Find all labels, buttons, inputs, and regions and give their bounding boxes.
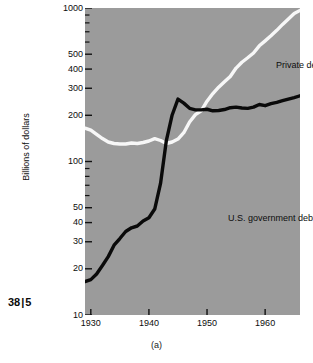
y-tick-label-100: 100 [49, 157, 83, 166]
plot-area: Private debt U.S. government debt [85, 8, 300, 315]
figure-container: 38|5 Billions of dollars 102030405010020… [0, 0, 313, 363]
y-tick-label-20: 20 [49, 264, 83, 273]
y-tick-label-300: 300 [49, 84, 83, 93]
page-marker: 38|5 [8, 296, 31, 308]
y-axis-major-ticks [85, 8, 92, 315]
page-marker-left: 38 [8, 296, 20, 308]
y-tick-label-30: 30 [49, 237, 83, 246]
x-tick-label-1940: 1940 [139, 318, 159, 328]
chart-svg [85, 8, 300, 315]
series-line-government-debt [85, 96, 300, 282]
y-axis-tick-labels: 10203040501002003004005001000 [45, 0, 83, 363]
y-axis-title: Billions of dollars [21, 87, 31, 207]
y-tick-label-40: 40 [49, 218, 83, 227]
figure-caption: (a) [0, 340, 313, 350]
x-tick-label-1960: 1960 [255, 318, 275, 328]
x-tick-label-1950: 1950 [197, 318, 217, 328]
series-line-private-debt [85, 10, 300, 144]
x-axis-tick-labels: 1930194019501960 [0, 318, 313, 334]
y-tick-label-200: 200 [49, 111, 83, 120]
x-tick-label-1930: 1930 [81, 318, 101, 328]
y-axis-minor-ticks [85, 15, 90, 196]
private-debt-label: Private debt [276, 60, 313, 70]
y-tick-label-50: 50 [49, 203, 83, 212]
y-tick-label-1000: 1000 [49, 4, 83, 13]
y-tick-label-500: 500 [49, 50, 83, 59]
government-debt-label: U.S. government debt [228, 213, 313, 223]
x-axis-ticks [91, 309, 265, 315]
y-tick-label-400: 400 [49, 65, 83, 74]
page-marker-right: 5 [25, 296, 31, 308]
